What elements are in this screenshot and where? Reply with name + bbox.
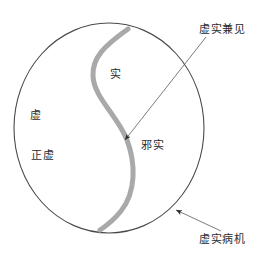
label-zheng-xu: 正虚 (31, 150, 54, 161)
label-shi: 实 (110, 69, 122, 80)
label-xu: 虚 (30, 110, 42, 121)
outer-circle (14, 23, 204, 233)
diagram-vector-layer (0, 0, 266, 257)
diagram-canvas: 虚 正虚 实 邪实 虚实兼见 虚实病机 (0, 0, 266, 257)
callout-leader-bingji (176, 210, 221, 231)
s-divider-curve (93, 29, 133, 230)
callout-label-xu-shi-jian-jian: 虚实兼见 (199, 24, 245, 35)
label-xie-shi: 邪实 (141, 140, 164, 151)
callout-leader-jianjian (125, 37, 206, 140)
callout-label-xu-shi-bing-ji: 虚实病机 (199, 234, 245, 245)
